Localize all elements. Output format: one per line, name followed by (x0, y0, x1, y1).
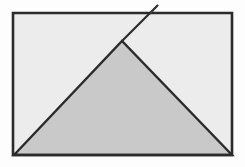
geometry-diagram: Rectangle with inscribed shaded triangle… (0, 0, 245, 167)
figure-stage: Rectangle with inscribed shaded triangle… (0, 0, 245, 167)
